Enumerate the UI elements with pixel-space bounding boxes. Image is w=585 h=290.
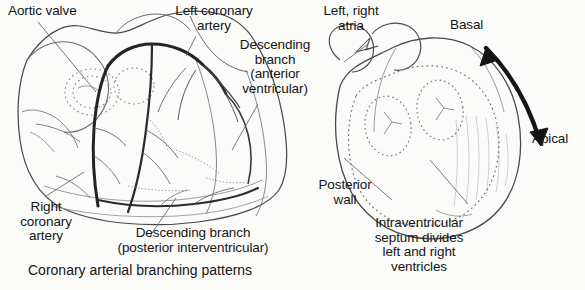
septal-branch-3 [146, 130, 178, 158]
right-ventricle-cavity [361, 93, 415, 159]
septal-branch-2 [158, 68, 186, 112]
septal-branch-1 [178, 70, 196, 120]
vessel-texture-3 [128, 186, 190, 191]
label-basal: Basal [450, 18, 483, 33]
apical-contour-1 [374, 48, 396, 132]
figure-caption: Coronary arterial branching patterns [28, 262, 252, 278]
posterior-branch-twig-2 [160, 190, 188, 206]
surface-crease-1 [22, 110, 78, 148]
small-surface-vessel-2 [30, 132, 54, 152]
label-posterior-wall: Posterior wall [302, 178, 388, 207]
leader-left-coronary [186, 36, 196, 56]
label-apical: Apical [532, 132, 568, 147]
left-ventricle-cavity [413, 77, 467, 143]
septal-branch-4 [142, 152, 170, 184]
valve-cusp-detail [78, 86, 100, 92]
label-right-coronary-artery: Right coronary artery [6, 200, 86, 244]
rca-branch-1 [94, 128, 126, 146]
left-coronary-artery [108, 44, 202, 66]
aortic-valve-inner-ring [73, 76, 111, 108]
vessel-texture-4 [206, 178, 246, 183]
leader-aortic-valve [38, 22, 96, 92]
leader-descending-anterior [232, 104, 258, 150]
rv-free-wall-crease [196, 60, 217, 214]
vessel-texture-2 [176, 150, 220, 174]
pulmonic-valve-ring [114, 68, 154, 104]
label-atria: Left, right atria [302, 4, 400, 33]
label-aortic-valve: Aortic valve [8, 4, 77, 19]
leader-atria [344, 44, 368, 62]
posterior-wall-shading [454, 116, 508, 206]
label-left-coronary-artery: Left coronary artery [160, 4, 268, 33]
rca-branch-2 [94, 156, 120, 184]
basal-apical-arrow-shaft [486, 48, 540, 142]
label-septum: Intraventricular septum divides left and… [348, 216, 490, 274]
valve-leaflet-marks [384, 98, 454, 134]
label-descending-posterior: Descending branch (posterior interventri… [86, 226, 300, 255]
vessel-texture-1 [150, 120, 168, 150]
right-coronary-artery [93, 66, 108, 206]
basal-arrowhead-icon [480, 48, 498, 66]
label-descending-anterior: Descending branch (anterior ventricular) [232, 38, 318, 96]
leader-septum [430, 160, 468, 204]
